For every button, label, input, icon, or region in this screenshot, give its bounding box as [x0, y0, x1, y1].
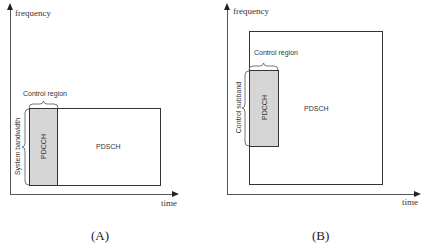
control-subband-label: Control subband	[235, 68, 242, 148]
y-axis-arrow-icon	[224, 3, 230, 10]
y-axis-label: frequency	[233, 6, 269, 16]
pdcch-label: PDCCH	[40, 127, 47, 167]
y-axis	[227, 8, 228, 195]
x-axis	[10, 194, 173, 195]
y-axis-label: frequency	[15, 8, 51, 18]
caption-b: (B)	[312, 228, 329, 244]
x-axis	[227, 194, 417, 195]
y-axis-arrow-icon	[7, 3, 13, 10]
x-axis-label: time	[402, 197, 418, 207]
system-bandwidth-label: System bandwidth	[14, 107, 21, 187]
control-region-label: Control region	[254, 49, 298, 56]
y-axis	[10, 8, 11, 195]
x-axis-label: time	[161, 198, 177, 208]
pdcch-label: PDCCH	[261, 88, 268, 128]
caption-a: (A)	[91, 228, 109, 244]
pdsch-label: PDSCH	[304, 105, 329, 112]
control-region-label: Control region	[23, 90, 67, 97]
pdsch-label: PDSCH	[96, 143, 121, 150]
x-axis-arrow-icon	[172, 191, 179, 197]
